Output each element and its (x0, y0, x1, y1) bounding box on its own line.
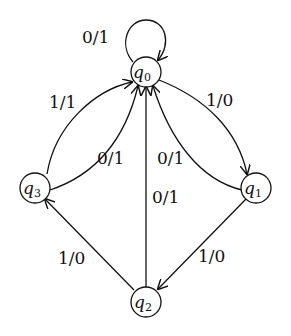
edge-label-q0-q0: 0/1 (82, 27, 109, 47)
state-node-q3: q3 (20, 173, 50, 203)
state-node-q1: q1 (241, 173, 271, 203)
edge-q1-to-q2: 1/0 (158, 198, 247, 289)
edge-q2-to-q3: 1/0 (45, 199, 134, 290)
state-diagram: 0/1 1/0 0/1 1/0 0/1 1/0 1/1 0/1 q0 q1 (0, 0, 291, 336)
edge-label-q2-q3: 1/0 (58, 248, 85, 268)
edge-label-q0-q1: 1/0 (206, 90, 233, 110)
edge-q2-to-q0: 0/1 (146, 87, 179, 287)
edge-label-q3-q0-inner: 0/1 (97, 148, 124, 168)
edge-q0-self-loop: 0/1 (82, 20, 166, 62)
edge-label-q1-q2: 1/0 (198, 246, 225, 266)
edge-label-q3-q0-outer: 1/1 (49, 92, 76, 112)
state-node-q2: q2 (131, 287, 161, 317)
edge-label-q1-q0: 0/1 (157, 148, 184, 168)
edge-label-q2-q0: 0/1 (152, 187, 179, 207)
state-node-q0: q0 (131, 57, 161, 87)
